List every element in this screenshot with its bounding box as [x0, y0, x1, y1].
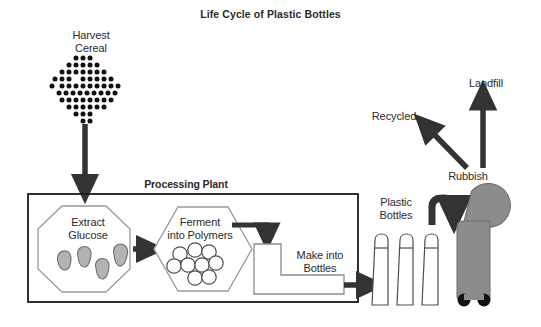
- node-label-harvest-cereal: Harvest Cereal: [48, 29, 134, 55]
- page-title: Life Cycle of Plastic Bottles: [0, 8, 541, 20]
- arrow-rubbish-to-recycled: [424, 124, 467, 168]
- rubbish-bin-icon: [457, 179, 515, 306]
- node-label-make-into-bottles: Make into Bottles: [282, 249, 358, 275]
- life-cycle-diagram: Life Cycle of Plastic Bottles Harvest Ce…: [0, 0, 541, 327]
- plastic-bottles-icon: [372, 234, 438, 305]
- node-label-rubbish: Rubbish: [440, 170, 496, 183]
- node-label-plastic-bottles: Plastic Bottles: [367, 196, 425, 222]
- cereal-dots-icon: [50, 56, 121, 124]
- arrow-bottles-to-bin: [432, 198, 454, 225]
- node-label-ferment-into-polymers: Ferment into Polymers: [155, 216, 245, 242]
- node-label-recycled: Recycled: [366, 110, 422, 123]
- node-label-landfill: Landfill: [458, 77, 514, 90]
- node-label-processing-plant: Processing Plant: [126, 178, 246, 190]
- node-label-extract-glucose: Extract Glucose: [50, 216, 126, 242]
